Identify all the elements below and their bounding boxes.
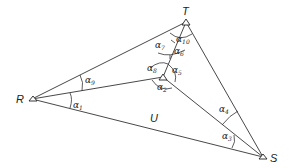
arc-alpha3 <box>232 135 235 148</box>
angle-alpha6: α6 <box>174 46 184 57</box>
tick <box>171 40 175 43</box>
angle-alpha3: α3 <box>222 131 232 142</box>
label-S: S <box>270 152 278 164</box>
angle-alpha5: α5 <box>172 65 182 76</box>
label-R: R <box>16 93 24 105</box>
label-T: T <box>182 5 190 17</box>
angle-alpha10: α10 <box>176 34 190 45</box>
arc-alpha9 <box>80 75 83 91</box>
angle-alpha1: α1 <box>73 100 83 111</box>
angle-alpha2: α2 <box>157 82 167 93</box>
label-U: U <box>150 112 158 124</box>
arc-alpha1 <box>70 93 72 108</box>
station-T-marker <box>182 19 190 25</box>
station-P-marker <box>159 74 167 80</box>
angle-alpha9: α9 <box>85 75 95 86</box>
edge-R-P <box>32 77 163 99</box>
survey-triangle-diagram: T R S U α1 α2 α3 α4 α5 α6 α7 α8 α9 α10 <box>0 0 289 168</box>
angle-alpha7: α7 <box>155 40 165 51</box>
angle-alpha4: α4 <box>219 104 229 115</box>
edge-P-S <box>163 77 263 157</box>
